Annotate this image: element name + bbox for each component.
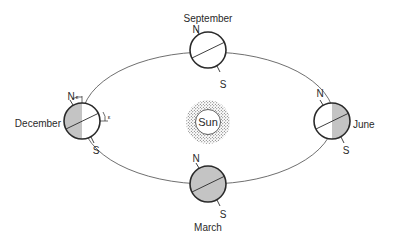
- earth-march: March N S: [190, 153, 227, 233]
- earth-december: ε ε December N S: [15, 91, 111, 156]
- december-label: December: [15, 118, 62, 129]
- sun-label: Sun: [198, 116, 218, 128]
- june-north-label: N: [316, 88, 323, 99]
- september-label: September: [184, 13, 234, 24]
- september-north-label: N: [192, 24, 199, 35]
- march-south-label: S: [220, 209, 227, 220]
- earth-september: September N S: [184, 13, 234, 90]
- september-south-label: S: [220, 79, 227, 90]
- earth-june: June N S: [314, 88, 375, 156]
- june-south-label: S: [343, 145, 350, 156]
- sun: Sun: [186, 100, 230, 144]
- december-north-label: N: [67, 91, 74, 102]
- march-north-label: N: [192, 153, 199, 164]
- december-tilt-symbol-top: ε: [76, 94, 79, 100]
- orbit-diagram: Sun September N S ε ε December N S: [0, 0, 394, 238]
- december-tilt-symbol-side: ε: [108, 114, 111, 120]
- december-south-label: S: [93, 145, 100, 156]
- june-label: June: [353, 119, 375, 130]
- march-label: March: [194, 222, 222, 233]
